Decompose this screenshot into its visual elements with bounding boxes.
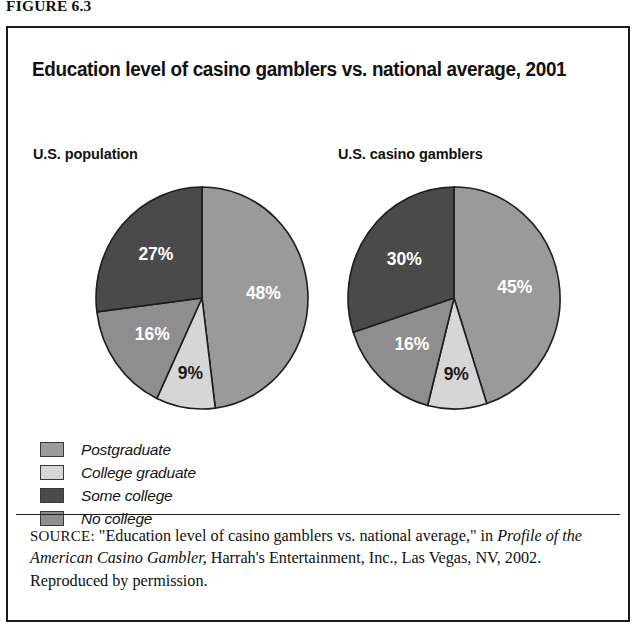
pie-slice-value-college-graduate: 9% xyxy=(444,364,470,384)
pie-chart-us-casino-gamblers: 45%9%16%30% xyxy=(345,186,563,410)
legend-swatch-postgraduate xyxy=(40,442,64,457)
legend-item-college-graduate: College graduate xyxy=(40,461,196,484)
source-prefix: SOURCE: xyxy=(30,528,95,544)
source-divider xyxy=(16,514,620,515)
pie-label-us-casino-gamblers: U.S. casino gamblers xyxy=(338,146,483,162)
pie-label-us-population: U.S. population xyxy=(33,146,138,162)
legend-label-some-college: Some college xyxy=(81,487,173,505)
figure-label: FIGURE 6.3 xyxy=(6,0,92,15)
legend-swatch-college-graduate xyxy=(40,465,64,480)
pie-slice-value-postgraduate: 16% xyxy=(394,334,429,354)
pie-slice-value-no-college: 45% xyxy=(497,277,532,297)
legend: Postgraduate College graduate Some colle… xyxy=(40,438,196,530)
legend-label-college-graduate: College graduate xyxy=(81,464,196,482)
pie-svg-us-casino-gamblers: 45%9%16%30% xyxy=(345,186,563,410)
pie-chart-us-population: 48%9%16%27% xyxy=(93,186,311,410)
legend-item-postgraduate: Postgraduate xyxy=(40,438,196,461)
pie-slice-value-some-college: 30% xyxy=(387,249,422,269)
source-note: SOURCE: "Education level of casino gambl… xyxy=(30,525,610,592)
page-title: Education level of casino gamblers vs. n… xyxy=(32,58,566,81)
legend-swatch-some-college xyxy=(40,488,64,503)
legend-item-some-college: Some college xyxy=(40,484,196,507)
pie-slice-value-some-college: 27% xyxy=(138,244,173,264)
figure-frame: Education level of casino gamblers vs. n… xyxy=(6,26,630,622)
pie-slice-value-no-college: 48% xyxy=(246,283,281,303)
pie-slice-value-college-graduate: 9% xyxy=(178,363,204,383)
pie-slice-value-postgraduate: 16% xyxy=(135,324,170,344)
legend-label-postgraduate: Postgraduate xyxy=(81,441,171,459)
pie-svg-us-population: 48%9%16%27% xyxy=(93,186,311,410)
source-line-1: "Education level of casino gamblers vs. … xyxy=(95,527,497,545)
